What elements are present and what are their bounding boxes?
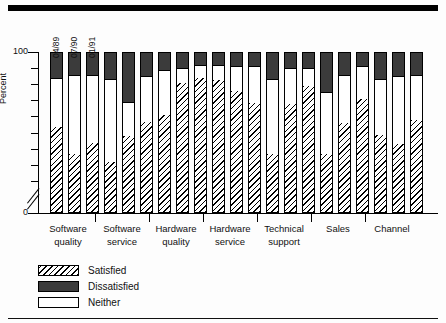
- y-axis-break-marker: [27, 183, 43, 209]
- y-tick-label-100: 100: [13, 47, 28, 56]
- stacked-bar[interactable]: [356, 52, 369, 213]
- category-label-hardware-service: Hardwareservice: [203, 222, 257, 248]
- category-label-channel: Channel: [365, 222, 419, 235]
- bar-segment-neither: [69, 76, 80, 157]
- bar-segment-neither: [267, 80, 278, 156]
- bar-segment-dissatisfied: [141, 53, 152, 77]
- bar-segment-neither: [231, 67, 242, 93]
- category-label-line: Software: [41, 222, 95, 235]
- category-separator: [311, 213, 312, 222]
- bar-segment-dissatisfied: [393, 53, 404, 77]
- bar-segment-satisfied: [285, 104, 296, 212]
- bar-segment-satisfied: [177, 83, 188, 212]
- bar-segment-dissatisfied: [285, 53, 296, 69]
- stacked-bar[interactable]: [248, 52, 261, 213]
- bar-segment-dissatisfied: [303, 53, 314, 69]
- bar-segment-neither: [339, 76, 350, 126]
- bar-segment-dissatisfied: [159, 53, 170, 71]
- category-label-line: Hardware: [203, 222, 257, 235]
- stacked-bar[interactable]: [212, 52, 225, 213]
- series-date-label-07-90: 07/90: [69, 37, 79, 58]
- stacked-bar[interactable]: [374, 52, 387, 213]
- category-label-line: support: [257, 235, 311, 248]
- stacked-bar[interactable]: [50, 52, 63, 213]
- bar-segment-satisfied: [375, 135, 386, 212]
- bar-segment-satisfied: [159, 115, 170, 212]
- bar-segment-dissatisfied: [321, 53, 332, 93]
- bar-segment-satisfied: [249, 103, 260, 212]
- category-separator: [257, 213, 258, 222]
- stacked-bar[interactable]: [68, 52, 81, 213]
- stacked-bar[interactable]: [194, 52, 207, 213]
- x-axis-spine: [38, 213, 438, 214]
- legend-item-satisfied[interactable]: Satisfied: [38, 262, 139, 278]
- category-label-software-quality: Softwarequality: [41, 222, 95, 248]
- category-label-hardware-quality: Hardwarequality: [149, 222, 203, 248]
- stacked-bar[interactable]: [266, 52, 279, 213]
- legend-label-neither: Neither: [88, 297, 120, 308]
- stacked-bar[interactable]: [86, 52, 99, 213]
- y-tick-80: [31, 84, 38, 85]
- bar-segment-dissatisfied: [231, 53, 242, 67]
- bar-segment-satisfied: [321, 154, 332, 212]
- category-label-line: Hardware: [149, 222, 203, 235]
- bar-segment-neither: [141, 77, 152, 124]
- category-label-line: quality: [149, 235, 203, 248]
- y-tick-20: [31, 181, 38, 182]
- category-label-line: Sales: [311, 222, 365, 235]
- series-date-label-04-89: 04/89: [51, 37, 61, 58]
- legend-item-neither[interactable]: Neither: [38, 294, 139, 310]
- bar-segment-neither: [375, 80, 386, 136]
- bar-segment-dissatisfied: [123, 53, 134, 103]
- category-separator: [365, 213, 366, 222]
- bar-segment-satisfied: [195, 78, 206, 212]
- bar-segment-satisfied: [141, 122, 152, 212]
- bar-segment-satisfied: [231, 91, 242, 212]
- bar-segment-neither: [105, 80, 116, 164]
- bar-segment-neither: [87, 76, 98, 145]
- bar-segment-dissatisfied: [213, 53, 224, 66]
- stacked-bar[interactable]: [284, 52, 297, 213]
- bar-segment-dissatisfied: [105, 53, 116, 80]
- bar-segment-satisfied: [339, 123, 350, 212]
- stacked-bar[interactable]: [230, 52, 243, 213]
- y-tick-0: [28, 213, 38, 214]
- stacked-bar[interactable]: [410, 52, 423, 213]
- bar-segment-satisfied: [123, 136, 134, 212]
- category-label-line: service: [203, 235, 257, 248]
- bar-segment-dissatisfied: [357, 53, 368, 67]
- bar-segment-neither: [321, 93, 332, 156]
- bar-segment-neither: [411, 76, 422, 123]
- category-separator: [203, 213, 204, 222]
- figure-canvas: Percent 1000 04/8907/9001/91 Softwarequa…: [0, 0, 446, 323]
- bar-segment-neither: [249, 67, 260, 104]
- y-tick-70: [31, 100, 38, 101]
- category-label-line: Technical: [257, 222, 311, 235]
- category-label-software-service: Softwareservice: [95, 222, 149, 248]
- bar-segment-satisfied: [267, 154, 278, 212]
- y-tick-40: [31, 149, 38, 150]
- category-label-line: Channel: [365, 222, 419, 235]
- y-tick-60: [31, 116, 38, 117]
- category-label-sales: Sales: [311, 222, 365, 235]
- bar-segment-dissatisfied: [249, 53, 260, 67]
- bar-segment-satisfied: [393, 144, 404, 212]
- bar-segment-neither: [123, 103, 134, 138]
- stacked-bar[interactable]: [320, 52, 333, 213]
- legend-label-dissatisfied: Dissatisfied: [88, 281, 139, 292]
- stacked-bar[interactable]: [158, 52, 171, 213]
- stacked-bar[interactable]: [302, 52, 315, 213]
- bar-segment-dissatisfied: [267, 53, 278, 80]
- bar-segment-neither: [159, 71, 170, 118]
- legend-item-dissatisfied[interactable]: Dissatisfied: [38, 278, 139, 294]
- stacked-bar[interactable]: [104, 52, 117, 213]
- bottom-rule-divider: [8, 318, 438, 319]
- y-tick-90: [31, 68, 38, 69]
- category-separator: [149, 213, 150, 222]
- stacked-bar[interactable]: [338, 52, 351, 213]
- stacked-bar[interactable]: [176, 52, 189, 213]
- stacked-bar[interactable]: [140, 52, 153, 213]
- stacked-bar[interactable]: [122, 52, 135, 213]
- bar-segment-neither: [357, 67, 368, 101]
- stacked-bar[interactable]: [392, 52, 405, 213]
